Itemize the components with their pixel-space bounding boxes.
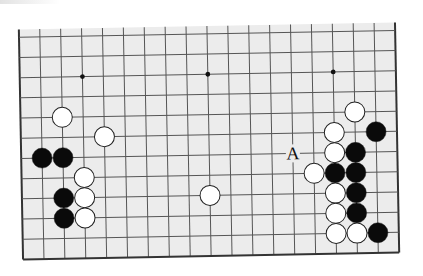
white-stone bbox=[52, 107, 72, 127]
white-stone bbox=[325, 183, 345, 203]
white-stone bbox=[347, 223, 367, 243]
white-stone bbox=[74, 167, 94, 187]
board-labels: A bbox=[286, 143, 300, 163]
go-board: A bbox=[0, 0, 423, 276]
white-stone bbox=[74, 188, 94, 208]
white-stone bbox=[324, 122, 344, 142]
white-stone bbox=[345, 102, 365, 122]
white-stone bbox=[94, 127, 114, 147]
black-stone bbox=[32, 148, 52, 168]
white-stone bbox=[304, 163, 324, 183]
black-stone bbox=[346, 183, 366, 203]
black-stone bbox=[346, 162, 366, 182]
white-stone bbox=[324, 143, 344, 163]
black-stone bbox=[345, 142, 365, 162]
black-stone bbox=[53, 148, 73, 168]
black-stone bbox=[54, 208, 74, 228]
white-stone bbox=[200, 185, 220, 205]
black-stone bbox=[54, 188, 74, 208]
black-stone bbox=[346, 203, 366, 223]
go-board-diagram: A bbox=[0, 0, 423, 276]
point-label: A bbox=[286, 143, 299, 163]
white-stone bbox=[326, 223, 346, 243]
black-stone bbox=[368, 223, 388, 243]
black-stone bbox=[366, 122, 386, 142]
black-stone bbox=[325, 163, 345, 183]
white-stone bbox=[75, 208, 95, 228]
white-stone bbox=[326, 203, 346, 223]
